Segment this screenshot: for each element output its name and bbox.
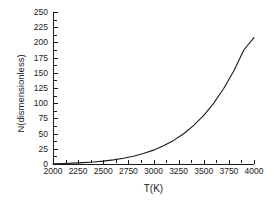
x-tick-minor xyxy=(241,160,242,163)
y-tick-major xyxy=(54,118,58,119)
y-tick-major xyxy=(54,134,58,135)
y-tick-label: 175 xyxy=(34,54,48,63)
y-tick-minor xyxy=(54,111,57,112)
x-tick-major xyxy=(154,160,155,164)
y-tick-label: 100 xyxy=(34,99,48,108)
y-tick-major xyxy=(54,27,58,28)
y-tick-minor xyxy=(54,141,57,142)
x-tick-major xyxy=(254,160,255,164)
x-axis-title: T(K) xyxy=(53,183,254,195)
x-tick-major xyxy=(78,160,79,164)
y-tick-major xyxy=(54,164,58,165)
x-tick-major xyxy=(128,160,129,164)
y-tick-label: 225 xyxy=(34,23,48,32)
y-tick-label: 200 xyxy=(34,38,48,47)
x-tick-minor xyxy=(216,160,217,163)
x-tick-minor xyxy=(191,160,192,163)
chart-figure: 0255075100125150175200225250 20002250250… xyxy=(0,0,274,202)
x-tick-major xyxy=(53,160,54,164)
y-tick-major xyxy=(54,58,58,59)
data-series-line xyxy=(53,38,254,164)
y-tick-major xyxy=(54,103,58,104)
x-tick-minor xyxy=(141,160,142,163)
y-tick-minor xyxy=(54,156,57,157)
y-tick-major xyxy=(54,149,58,150)
x-axis-spine xyxy=(53,164,254,165)
y-tick-minor xyxy=(54,126,57,127)
x-tick-major xyxy=(229,160,230,164)
x-tick-major xyxy=(204,160,205,164)
y-tick-label: 125 xyxy=(34,84,48,93)
y-tick-minor xyxy=(54,65,57,66)
y-tick-label: 75 xyxy=(39,114,48,123)
y-tick-label: 150 xyxy=(34,69,48,78)
y-tick-major xyxy=(54,42,58,43)
x-tick-major xyxy=(103,160,104,164)
y-tick-major xyxy=(54,73,58,74)
x-tick-minor xyxy=(91,160,92,163)
y-tick-minor xyxy=(54,80,57,81)
y-axis-title: N(dismensionless) xyxy=(15,19,26,169)
y-tick-minor xyxy=(54,96,57,97)
y-tick-minor xyxy=(54,20,57,21)
x-tick-major xyxy=(179,160,180,164)
y-tick-major xyxy=(54,12,58,13)
y-tick-label: 250 xyxy=(34,8,48,17)
x-tick-minor xyxy=(66,160,67,163)
y-tick-label: 50 xyxy=(39,130,48,139)
y-tick-label: 25 xyxy=(39,145,48,154)
x-tick-label: 4000 xyxy=(237,167,271,176)
x-tick-minor xyxy=(116,160,117,163)
y-tick-major xyxy=(54,88,58,89)
x-tick-minor xyxy=(166,160,167,163)
y-tick-minor xyxy=(54,50,57,51)
y-tick-minor xyxy=(54,35,57,36)
